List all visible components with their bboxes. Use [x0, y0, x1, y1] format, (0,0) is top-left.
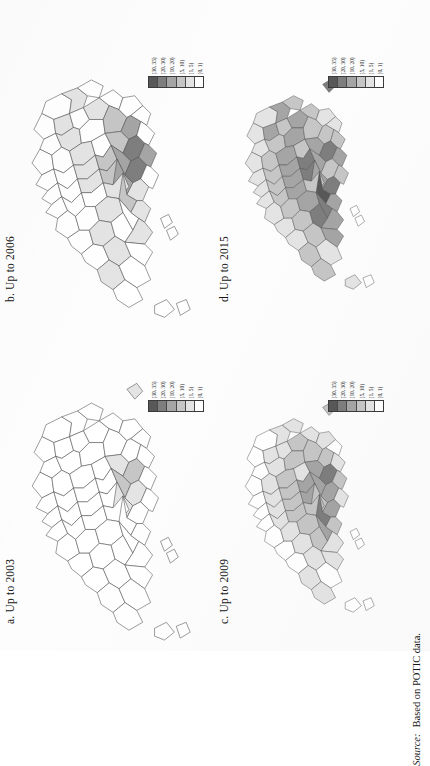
legend-swatch — [177, 77, 186, 87]
legend-label: [20, 30) — [341, 381, 346, 398]
legend-label: [10, 20) — [170, 381, 175, 398]
legend-label: [5, 10) — [359, 384, 364, 398]
legend-swatch — [149, 77, 158, 87]
legend-swatch — [158, 77, 167, 87]
legend-label: [30, 35) — [151, 381, 156, 398]
legend-swatch — [347, 77, 356, 87]
legend-label: [20, 30) — [341, 57, 346, 74]
legend-swatch — [177, 401, 186, 411]
panel-caption-c: c. Up to 2009 — [218, 559, 230, 624]
legend-swatches-b — [148, 76, 204, 88]
legend-label: [20, 30) — [161, 57, 166, 74]
legend-swatch — [149, 401, 158, 411]
legend-swatch — [375, 401, 383, 411]
legend-label: [5, 10) — [179, 60, 184, 74]
legend-labels-b: [30, 35) [20, 30) [10, 20) [5, 10) [1, 5… — [148, 24, 204, 74]
legend-label: [0, 1) — [198, 386, 203, 398]
legend-label: [30, 35) — [331, 57, 336, 74]
map-legend-b: [30, 35) [20, 30) [10, 20) [5, 10) [1, 5… — [148, 18, 208, 96]
legend-swatches-c — [328, 400, 384, 412]
legend-swatch — [167, 77, 176, 87]
legend-swatch — [158, 401, 167, 411]
map-legend-c: [30, 35) [20, 30) [10, 20) [5, 10) [1, 5… — [328, 342, 388, 420]
legend-swatch — [167, 401, 176, 411]
legend-swatch — [195, 401, 203, 411]
legend-swatches-a — [148, 400, 204, 412]
source-text: Based on POTIC data. — [411, 633, 422, 728]
legend-label: [5, 10) — [359, 60, 364, 74]
map-legend-a: [30, 35) [20, 30) [10, 20) [5, 10) [1, 5… — [148, 342, 208, 420]
panel-caption-b: b. Up to 2006 — [4, 236, 16, 302]
source-label: Source: — [411, 734, 422, 766]
panel-caption-d: d. Up to 2015 — [218, 236, 230, 302]
legend-swatch — [329, 401, 338, 411]
legend-swatch — [186, 401, 195, 411]
legend-label: [1, 5) — [189, 62, 194, 74]
legend-label: [20, 30) — [161, 381, 166, 398]
map-panel-a: a. Up to 2003 — [2, 328, 214, 648]
legend-swatch — [338, 401, 347, 411]
map-panel-b: b. Up to 2006 — [2, 4, 214, 326]
legend-labels-d: [30, 35) [20, 30) [10, 20) [5, 10) [1, 5… — [328, 24, 384, 74]
legend-label: [0, 1) — [198, 62, 203, 74]
legend-swatch — [366, 401, 375, 411]
panel-caption-a: a. Up to 2003 — [4, 559, 16, 624]
legend-labels-c: [30, 35) [20, 30) [10, 20) [5, 10) [1, 5… — [328, 348, 384, 398]
legend-label: [30, 35) — [331, 381, 336, 398]
legend-swatch — [347, 401, 356, 411]
legend-label: [1, 5) — [369, 386, 374, 398]
legend-swatches-d — [328, 76, 384, 88]
legend-swatch — [357, 401, 366, 411]
legend-swatch — [366, 77, 375, 87]
legend-label: [10, 20) — [170, 57, 175, 74]
legend-label: [30, 35) — [151, 57, 156, 74]
legend-swatch — [195, 77, 203, 87]
map-legend-d: [30, 35) [20, 30) [10, 20) [5, 10) [1, 5… — [328, 18, 388, 96]
legend-swatch — [329, 77, 338, 87]
map-panel-d: d. Up to 2015 — [216, 4, 394, 326]
legend-label: [0, 1) — [378, 386, 383, 398]
legend-label: [0, 1) — [378, 62, 383, 74]
legend-swatch — [186, 77, 195, 87]
legend-label: [10, 20) — [350, 381, 355, 398]
legend-label: [1, 5) — [369, 62, 374, 74]
legend-label: [1, 5) — [189, 386, 194, 398]
legend-swatch — [357, 77, 366, 87]
legend-swatch — [375, 77, 383, 87]
source-note: Source:Based on POTIC data. — [411, 633, 422, 766]
legend-label: [5, 10) — [179, 384, 184, 398]
legend-labels-a: [30, 35) [20, 30) [10, 20) [5, 10) [1, 5… — [148, 348, 204, 398]
legend-swatch — [338, 77, 347, 87]
legend-label: [10, 20) — [350, 57, 355, 74]
map-panel-c: c. Up to 2009 — [216, 328, 394, 648]
